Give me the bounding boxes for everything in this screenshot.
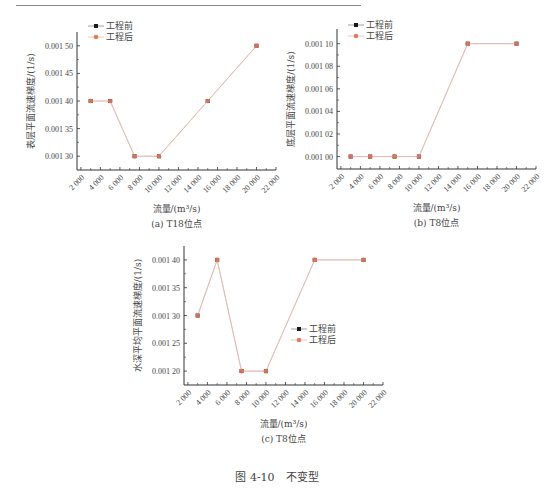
data-point-after bbox=[361, 258, 366, 263]
x-axis-title: 流量/(m³/s) bbox=[153, 203, 201, 214]
x-tick-label: 14 000 bbox=[288, 388, 310, 410]
data-point-after bbox=[205, 99, 210, 104]
data-point-after bbox=[157, 154, 162, 159]
legend-label: 工程前 bbox=[366, 19, 393, 30]
x-tick-label: 16 000 bbox=[461, 172, 483, 194]
x-tick-label: 20 000 bbox=[240, 173, 262, 195]
x-tick-label: 2 000 bbox=[174, 388, 193, 407]
chart-b: 2 0004 0006 0008 00010 00012 00014 00016… bbox=[270, 0, 554, 240]
series-line-after bbox=[198, 260, 364, 371]
x-tick-label: 4 000 bbox=[347, 172, 366, 191]
y-tick-label: 0.001 35 bbox=[152, 284, 180, 293]
legend-label: 工程前 bbox=[309, 323, 336, 334]
x-tick-label: 4 000 bbox=[87, 173, 106, 192]
legend-marker-before bbox=[297, 327, 301, 331]
legend-marker-after bbox=[94, 35, 99, 40]
y-tick-label: 0.001 00 bbox=[305, 153, 333, 162]
y-axis-title: 底层平面流速梯度/(1/s) bbox=[285, 51, 296, 146]
x-tick-label: 14 000 bbox=[181, 173, 203, 195]
x-tick-label: 18 000 bbox=[220, 173, 242, 195]
x-tick-label: 12 000 bbox=[422, 172, 444, 194]
legend-marker-before bbox=[354, 23, 358, 27]
x-tick-label: 14 000 bbox=[441, 172, 463, 194]
y-tick-label: 0.001 25 bbox=[152, 339, 180, 348]
series-line-before bbox=[351, 44, 517, 157]
data-point-after bbox=[239, 369, 244, 374]
y-tick-label: 0.001 08 bbox=[305, 62, 333, 71]
y-axis-title: 表层平面流速梯度/(1/s) bbox=[25, 53, 36, 148]
x-tick-label: 10 000 bbox=[402, 172, 424, 194]
x-axis-title: 流量/(m³/s) bbox=[260, 418, 308, 429]
chart-caption: (a) T18位点 bbox=[151, 218, 202, 229]
x-tick-label: 12 000 bbox=[162, 173, 184, 195]
y-tick-label: 0.001 10 bbox=[305, 40, 333, 49]
data-point-after bbox=[312, 258, 317, 263]
data-point-after bbox=[348, 154, 353, 159]
chart-svg-a: 2 0004 0006 0008 00010 00012 00014 00016… bbox=[0, 0, 280, 240]
legend: 工程前工程后 bbox=[348, 19, 393, 41]
y-tick-label: 0.001 20 bbox=[152, 367, 180, 376]
y-tick-label: 0.001 50 bbox=[45, 42, 73, 51]
series-line-after bbox=[351, 44, 517, 157]
x-tick-label: 10 000 bbox=[249, 388, 271, 410]
data-point-after bbox=[108, 99, 113, 104]
legend-marker-after bbox=[297, 338, 302, 343]
legend-marker-before bbox=[94, 24, 98, 28]
y-tick-label: 0.001 40 bbox=[45, 97, 73, 106]
data-point-after bbox=[417, 154, 422, 159]
y-tick-label: 0.001 30 bbox=[45, 152, 73, 161]
x-tick-label: 6 000 bbox=[106, 173, 125, 192]
y-tick-label: 0.001 06 bbox=[305, 85, 333, 94]
data-point-after bbox=[264, 369, 269, 374]
data-point-after bbox=[195, 313, 200, 318]
data-point-after bbox=[215, 258, 220, 263]
legend: 工程前工程后 bbox=[88, 20, 133, 42]
legend-label: 工程后 bbox=[309, 335, 336, 345]
legend-label: 工程后 bbox=[106, 32, 133, 42]
chart-svg-b: 2 0004 0006 0008 00010 00012 00014 00016… bbox=[270, 0, 554, 240]
series-line-after bbox=[91, 46, 257, 156]
y-tick-label: 0.001 04 bbox=[305, 107, 333, 116]
figure-caption: 图 4-10 不变型 bbox=[0, 468, 554, 484]
legend-label: 工程后 bbox=[366, 31, 393, 41]
y-tick-label: 0.001 02 bbox=[305, 130, 333, 139]
x-tick-label: 6 000 bbox=[366, 172, 385, 191]
legend: 工程前工程后 bbox=[291, 323, 336, 345]
x-tick-label: 2 000 bbox=[327, 172, 346, 191]
data-point-after bbox=[88, 99, 93, 104]
x-tick-label: 16 000 bbox=[308, 388, 330, 410]
data-point-after bbox=[514, 41, 519, 46]
y-tick-label: 0.001 35 bbox=[45, 125, 73, 134]
chart-caption: (b) T8位点 bbox=[414, 217, 459, 228]
data-point-after bbox=[465, 41, 470, 46]
x-tick-label: 4 000 bbox=[194, 388, 213, 407]
x-tick-label: 22 000 bbox=[366, 388, 388, 410]
x-tick-label: 16 000 bbox=[201, 173, 223, 195]
x-tick-label: 18 000 bbox=[480, 172, 502, 194]
y-axis-title: 水深平均平面流速梯度/(1/s) bbox=[132, 259, 143, 372]
data-point-after bbox=[254, 44, 259, 49]
x-tick-label: 6 000 bbox=[213, 388, 232, 407]
y-tick-label: 0.001 40 bbox=[152, 256, 180, 265]
series-line-before bbox=[198, 260, 364, 371]
x-tick-label: 2 000 bbox=[67, 173, 86, 192]
x-tick-label: 22 000 bbox=[519, 172, 541, 194]
data-point-after bbox=[368, 154, 373, 159]
chart-c: 2 0004 0006 0008 00010 00012 00014 00016… bbox=[130, 240, 420, 465]
data-point-after bbox=[132, 154, 137, 159]
legend-label: 工程前 bbox=[106, 20, 133, 31]
y-tick-label: 0.001 45 bbox=[45, 69, 73, 78]
chart-a: 2 0004 0006 0008 00010 00012 00014 00016… bbox=[0, 0, 280, 240]
x-tick-label: 20 000 bbox=[500, 172, 522, 194]
x-tick-label: 10 000 bbox=[142, 173, 164, 195]
x-tick-label: 20 000 bbox=[347, 388, 369, 410]
chart-svg-c: 2 0004 0006 0008 00010 00012 00014 00016… bbox=[130, 240, 420, 465]
y-tick-label: 0.001 30 bbox=[152, 312, 180, 321]
x-tick-label: 12 000 bbox=[269, 388, 291, 410]
legend-marker-after bbox=[354, 34, 359, 39]
chart-caption: (c) T8位点 bbox=[261, 433, 306, 444]
data-point-after bbox=[392, 154, 397, 159]
x-axis-title: 流量/(m³/s) bbox=[413, 202, 461, 213]
x-tick-label: 18 000 bbox=[327, 388, 349, 410]
